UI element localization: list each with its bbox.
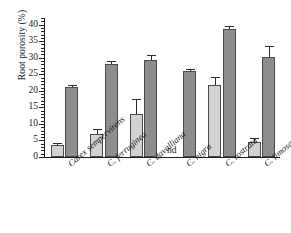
bar	[105, 64, 118, 157]
y-tick-label: 5	[33, 136, 38, 146]
error-bar-stem	[151, 56, 152, 61]
error-bar-stem	[136, 100, 137, 114]
y-tick-label: 15	[29, 103, 39, 113]
bar-group	[241, 18, 280, 157]
error-bar-stem	[190, 70, 191, 72]
bar-group	[201, 18, 240, 157]
y-tick-label: 10	[29, 119, 39, 129]
error-bar-stem	[57, 144, 58, 145]
y-tick-label: 20	[29, 86, 39, 96]
error-bar-cap	[211, 77, 220, 78]
error-bar-cap	[147, 55, 156, 56]
bar	[65, 87, 78, 157]
bar	[223, 29, 236, 157]
error-bar-stem	[215, 78, 216, 85]
y-tick-label: 0	[33, 152, 38, 162]
error-bar-cap	[68, 85, 77, 86]
error-bar-cap	[132, 99, 141, 100]
error-bar-cap	[53, 143, 62, 144]
y-tick-label: 35	[29, 36, 39, 46]
error-bar-cap	[265, 46, 274, 47]
root-porosity-bar-chart: Root porosity (%) 0510152025303540 nd Ca…	[0, 0, 291, 233]
error-bar-cap	[186, 69, 195, 70]
error-bar-cap	[107, 61, 116, 62]
y-axis-title: Root porosity (%)	[17, 0, 27, 105]
bar	[144, 60, 157, 157]
error-bar-stem	[72, 86, 73, 87]
error-bar-stem	[111, 62, 112, 64]
y-tick-label: 30	[29, 53, 39, 63]
plot-area: 0510152025303540 nd	[44, 18, 280, 157]
bar-group	[44, 18, 83, 157]
bar	[51, 145, 64, 157]
bar	[183, 71, 196, 157]
error-bar-cap	[225, 26, 234, 27]
bar	[262, 57, 275, 157]
y-tick-major	[39, 157, 44, 158]
y-tick-label: 25	[29, 70, 39, 80]
error-bar-stem	[229, 27, 230, 29]
y-tick-label: 40	[29, 20, 39, 30]
error-bar-stem	[269, 47, 270, 57]
